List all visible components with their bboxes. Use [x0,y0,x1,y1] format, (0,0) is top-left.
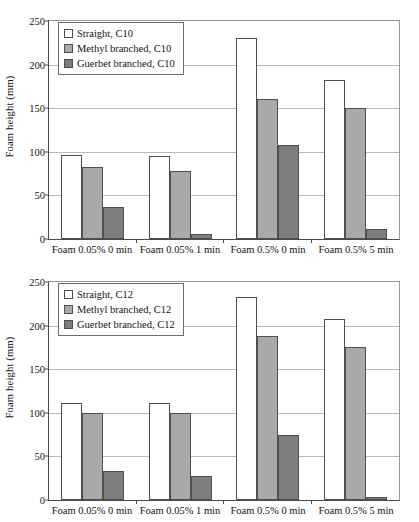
y-tick-label: 150 [29,103,45,114]
figure-root: Foam height (mm) 050100150200250 Foam 0.… [0,0,419,522]
y-tick-label: 200 [29,320,45,331]
legend-swatch-icon [64,44,73,53]
legend-label: Guerbet branched, C12 [77,319,175,330]
bar [61,155,82,239]
legend-item: Straight, C12 [64,287,175,302]
bar-group [312,21,400,239]
x-tick-mark [136,239,137,243]
y-tick-label: 50 [35,190,46,201]
bar [191,234,212,239]
bar [324,319,345,500]
bar [345,108,366,239]
y-axis-label: Foam height (mm) [2,261,18,493]
x-tick-mark [223,500,224,504]
x-tick-mark [223,239,224,243]
bar [278,145,299,239]
bar-group [312,282,400,500]
bar [324,80,345,239]
legend-swatch-icon [64,29,73,38]
legend-swatch-icon [64,290,73,299]
bar [170,413,191,500]
legend-item: Methyl branched, C12 [64,302,175,317]
legend-label: Straight, C12 [77,289,133,300]
x-tick-label: Foam 0.05% 0 min [48,505,136,516]
bar [191,476,212,500]
bar [82,413,103,500]
bar [61,403,82,500]
y-tick-label: 150 [29,364,45,375]
x-tick-label: Foam 0.05% 0 min [48,244,136,255]
legend-item: Guerbet branched, C12 [64,317,175,332]
legend-swatch-icon [64,305,73,314]
bar [236,38,257,239]
y-tick-label: 100 [29,407,45,418]
bar-group [224,282,312,500]
bar [345,347,366,500]
x-tick-label: Foam 0.5% 5 min [312,505,400,516]
chart-c10: Foam height (mm) 050100150200250 Foam 0.… [0,0,419,261]
legend-swatch-icon [64,59,73,68]
chart-c12: Foam height (mm) 050100150200250 Foam 0.… [0,261,419,522]
y-tick-label: 100 [29,146,45,157]
x-tick-label: Foam 0.05% 1 min [136,244,224,255]
x-tick-mark [311,500,312,504]
y-tick-label: 0 [40,234,45,245]
legend-swatch-icon [64,320,73,329]
x-tick-label: Foam 0.5% 5 min [312,244,400,255]
y-tick-label: 200 [29,59,45,70]
legend-item: Straight, C10 [64,26,175,41]
bar [366,229,387,239]
x-tick-label: Foam 0.5% 0 min [224,505,312,516]
y-tick-label: 0 [40,495,45,506]
y-tick-label: 250 [29,277,45,288]
x-tick-mark [311,239,312,243]
bar [236,297,257,500]
bar [278,435,299,500]
bar [257,99,278,239]
x-tick-mark [136,500,137,504]
y-tick-label: 250 [29,16,45,27]
bar [103,471,124,500]
legend-c12: Straight, C12Methyl branched, C12Guerbet… [58,283,184,336]
y-tick-label: 50 [35,451,46,462]
legend-item: Methyl branched, C10 [64,41,175,56]
y-axis-label: Foam height (mm) [2,0,18,232]
x-tick-label: Foam 0.5% 0 min [224,244,312,255]
legend-label: Methyl branched, C10 [77,43,171,54]
bar-group [224,21,312,239]
bar [103,207,124,239]
legend-label: Guerbet branched, C10 [77,58,175,69]
legend-label: Methyl branched, C12 [77,304,171,315]
legend-label: Straight, C10 [77,28,133,39]
bar [82,167,103,239]
bar [366,497,387,500]
x-axis-labels-c10: Foam 0.05% 0 minFoam 0.05% 1 minFoam 0.5… [48,244,400,255]
bar [170,171,191,239]
bar [149,156,170,239]
x-axis-labels-c12: Foam 0.05% 0 minFoam 0.05% 1 minFoam 0.5… [48,505,400,516]
legend-c10: Straight, C10Methyl branched, C10Guerbet… [58,22,184,75]
legend-item: Guerbet branched, C10 [64,56,175,71]
bar [149,403,170,500]
x-tick-label: Foam 0.05% 1 min [136,505,224,516]
bar [257,336,278,500]
